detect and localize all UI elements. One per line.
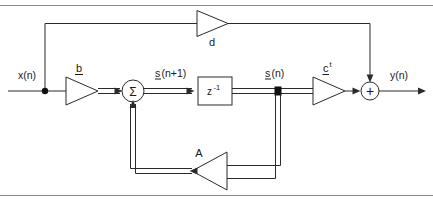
state-now-branch: s (n) xyxy=(232,67,313,96)
input-junction-dot xyxy=(42,88,48,94)
gain-label-c-transpose: t xyxy=(330,60,333,69)
signal-flow-diagram-figure: d x(n) b Σ s xyxy=(0,0,433,203)
d-to-adder-arrowhead xyxy=(367,75,374,83)
A-path-input-wire-inner xyxy=(227,95,281,166)
state-next-label-head: s xyxy=(155,67,160,79)
state-now-label-tail: (n) xyxy=(272,67,285,79)
delay-label-z: z xyxy=(207,86,212,97)
gain-triangle-c xyxy=(313,77,345,105)
d-path-output-wire xyxy=(228,24,370,81)
input-branch: x(n) xyxy=(8,69,66,94)
A-path-output-wire-inner xyxy=(131,104,193,169)
A-feedback-path: A xyxy=(130,95,281,190)
b-gain-branch: b xyxy=(66,62,123,105)
state-now-label-head: s xyxy=(265,67,270,79)
c-to-adder-arrowhead xyxy=(353,88,361,95)
gain-label-d: d xyxy=(209,36,215,48)
c-gain-branch: c t xyxy=(313,60,361,105)
gain-triangle-b xyxy=(66,77,98,105)
output-arrowhead xyxy=(418,88,426,95)
diagram-canvas: d x(n) b Σ s xyxy=(0,0,433,203)
output-adder-node: + xyxy=(361,82,379,100)
summer-symbol: Σ xyxy=(129,85,136,99)
gain-triangle-d xyxy=(197,11,228,37)
gain-label-c: c xyxy=(323,62,329,74)
summer-node: Σ xyxy=(122,80,144,102)
state-next-label-tail: (n+1) xyxy=(162,67,187,79)
gain-label-b: b xyxy=(76,62,82,74)
output-branch: y(n) xyxy=(379,69,426,94)
unit-delay-block: z -1 xyxy=(198,77,232,105)
output-label-y: y(n) xyxy=(390,69,408,81)
A-path-output-wire-outer xyxy=(136,104,193,174)
gain-label-A: A xyxy=(195,147,203,159)
state-next-branch: s (n+1) xyxy=(144,67,195,94)
state-junction-dot xyxy=(275,87,282,96)
input-label-x: x(n) xyxy=(18,69,36,81)
delay-label-exponent: -1 xyxy=(214,83,221,92)
adder-plus-symbol: + xyxy=(366,83,374,99)
